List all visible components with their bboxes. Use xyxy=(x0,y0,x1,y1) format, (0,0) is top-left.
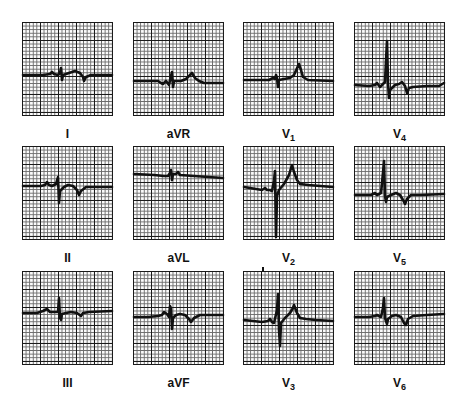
lead-name: V xyxy=(393,376,401,390)
ecg-panel-v4 xyxy=(354,22,445,116)
lead-label-v1: V1 xyxy=(243,127,334,141)
ecg-trace-v6 xyxy=(355,272,444,364)
lead-name: V xyxy=(393,251,401,265)
lead-subscript: 5 xyxy=(401,257,406,267)
lead-subscript: 4 xyxy=(401,133,406,143)
lead-label-avr: aVR xyxy=(133,127,224,141)
lead-name: V xyxy=(282,127,290,141)
lead-name: II xyxy=(64,251,71,265)
lead-name: I xyxy=(66,127,69,141)
ecg-panel-avl xyxy=(133,146,224,240)
ecg-trace-v5 xyxy=(355,147,444,239)
ecg-trace-avl xyxy=(134,147,223,239)
ecg-trace-iii xyxy=(23,272,112,364)
ecg-panel-avr xyxy=(133,22,224,116)
lead-name: V xyxy=(282,251,290,265)
ecg-panel-i xyxy=(22,22,113,116)
lead-label-v4: V4 xyxy=(354,127,445,141)
ecg-trace-v3 xyxy=(244,272,333,364)
ecg-trace-v2 xyxy=(244,147,333,239)
ecg-panel-v1 xyxy=(243,22,334,116)
ecg-trace-avf xyxy=(134,272,223,364)
lead-subscript: 2 xyxy=(290,257,295,267)
ecg-panel-avf xyxy=(133,271,224,365)
lead-label-iii: III xyxy=(22,376,113,390)
lead-label-avf: aVF xyxy=(133,376,224,390)
lead-subscript: 3 xyxy=(290,382,295,392)
ecg-trace-avr xyxy=(134,23,223,115)
ecg-panel-v5 xyxy=(354,146,445,240)
lead-label-v5: V5 xyxy=(354,251,445,265)
lead-subscript: 6 xyxy=(401,382,406,392)
ecg-trace-v4 xyxy=(355,23,444,115)
ecg-panel-v3 xyxy=(243,271,334,365)
ecg-panel-ii xyxy=(22,146,113,240)
lead-name: III xyxy=(62,376,72,390)
lead-name: V xyxy=(282,376,290,390)
ecg-panel-v6 xyxy=(354,271,445,365)
lead-name: aVL xyxy=(167,251,189,265)
lead-label-v6: V6 xyxy=(354,376,445,390)
ecg-trace-ii xyxy=(23,147,112,239)
ecg-panel-v2 xyxy=(243,146,334,240)
lead-label-ii: II xyxy=(22,251,113,265)
lead-name: aVF xyxy=(167,376,189,390)
lead-label-v3: V3 xyxy=(243,376,334,390)
ecg-trace-v1 xyxy=(244,23,333,115)
lead-subscript: 1 xyxy=(290,133,295,143)
lead-label-i: I xyxy=(22,127,113,141)
ecg-panel-iii xyxy=(22,271,113,365)
lead-label-v2: V2 xyxy=(243,251,334,265)
lead-label-avl: aVL xyxy=(133,251,224,265)
ecg-trace-i xyxy=(23,23,112,115)
lead-name: aVR xyxy=(167,127,190,141)
lead-name: V xyxy=(393,127,401,141)
calibration-mark xyxy=(262,267,264,272)
